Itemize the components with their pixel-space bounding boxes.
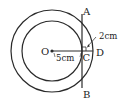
label-D: D	[96, 47, 104, 58]
geometry-diagram: O A B C D 5cm 2cm	[0, 0, 132, 111]
label-B: B	[83, 89, 90, 100]
label-O: O	[41, 46, 49, 57]
label-2cm: 2cm	[99, 31, 117, 41]
tick-5cm-left	[54, 53, 55, 57]
label-5cm: 5cm	[56, 53, 74, 63]
label-A: A	[82, 6, 91, 17]
label-C: C	[83, 52, 91, 63]
tick-5cm-right	[80, 53, 81, 57]
center-point-O	[50, 49, 53, 52]
